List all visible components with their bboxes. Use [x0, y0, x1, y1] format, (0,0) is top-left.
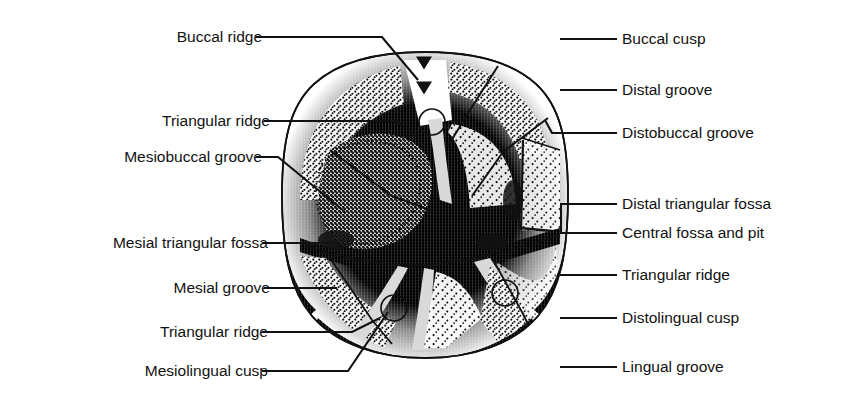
label-distolingual-cusp: Distolingual cusp [622, 310, 739, 326]
label-mesiolingual-cusp: Mesiolingual cusp [145, 363, 268, 379]
leader-lines-right [560, 39, 617, 367]
label-mesiobuccal-groove: Mesiobuccal groove [124, 149, 262, 165]
label-buccal-ridge: Buccal ridge [177, 29, 262, 45]
label-triangular-ridge-right: Triangular ridge [622, 267, 730, 283]
label-buccal-cusp: Buccal cusp [622, 31, 706, 47]
label-mesial-triangular-fossa: Mesial triangular fossa [113, 235, 268, 251]
central-pit-accent [476, 233, 508, 251]
figure-canvas: Buccal ridgeTriangular ridgeMesiobuccal … [0, 0, 852, 405]
label-triangular-ridge-upper: Triangular ridge [162, 113, 270, 129]
mesial-fossa-accent [318, 230, 354, 250]
label-central-fossa-and-pit: Central fossa and pit [622, 225, 764, 241]
label-distal-groove: Distal groove [622, 82, 712, 98]
label-lingual-groove: Lingual groove [622, 359, 724, 375]
distal-fossa-accent [503, 180, 523, 220]
label-distobuccal-groove: Distobuccal groove [622, 125, 754, 141]
label-mesial-groove: Mesial groove [174, 280, 271, 296]
label-distal-triangular-fossa: Distal triangular fossa [622, 196, 771, 212]
distal-fossa-panel [520, 138, 562, 232]
label-triangular-ridge-lower: Triangular ridge [160, 324, 268, 340]
